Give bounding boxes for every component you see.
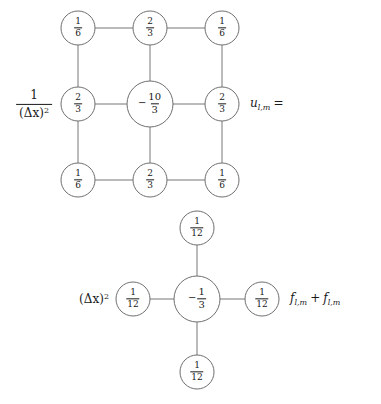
laplacian-prefactor-den-base: (Δx) [19,106,44,120]
stencil-node-right [245,282,279,316]
source-suffix-plus: + [307,291,323,305]
laplacian-prefactor-den-exponent: 2 [44,106,49,115]
stencil-node-bottom-left [61,163,95,197]
stencil-node-bottom-right [205,163,239,197]
laplacian-suffix-equals: = [270,96,286,110]
stencil-node-middle-left [61,87,95,121]
laplacian-prefactor-numerator: 1 [27,89,41,104]
stencil-node-top-center [133,11,167,45]
laplacian-suffix-label: ul,m= [250,96,286,111]
laplacian-suffix-subscript: l,m [258,103,271,112]
laplacian-prefactor-label: 1 (Δx)2 [16,89,52,119]
stencil-node-center [174,276,220,322]
stencil-node-top [180,211,214,245]
stencil-node-top-right [205,11,239,45]
source-suffix-subscript1: l,m [294,298,307,307]
source-suffix-subscript2: l,m [328,298,341,307]
stencil-node-center [127,81,173,127]
laplacian-prefactor-denominator: (Δx)2 [16,104,52,120]
stencil-node-middle-right [205,87,239,121]
source-suffix-label: fl,m+fl,m [290,291,340,306]
source-prefactor-label: (Δx)2 [79,292,109,306]
source-prefactor-exponent: 2 [104,292,109,301]
stencil-node-left [116,282,150,316]
stencil-node-bottom [180,355,214,389]
laplacian-suffix-symbol: u [250,96,258,110]
nodes-layer [61,11,279,389]
stencil-node-top-left [61,11,95,45]
stencil-node-bottom-center [133,163,167,197]
stencil-diagram-canvas [0,0,381,404]
source-prefactor-base: (Δx) [79,292,104,306]
